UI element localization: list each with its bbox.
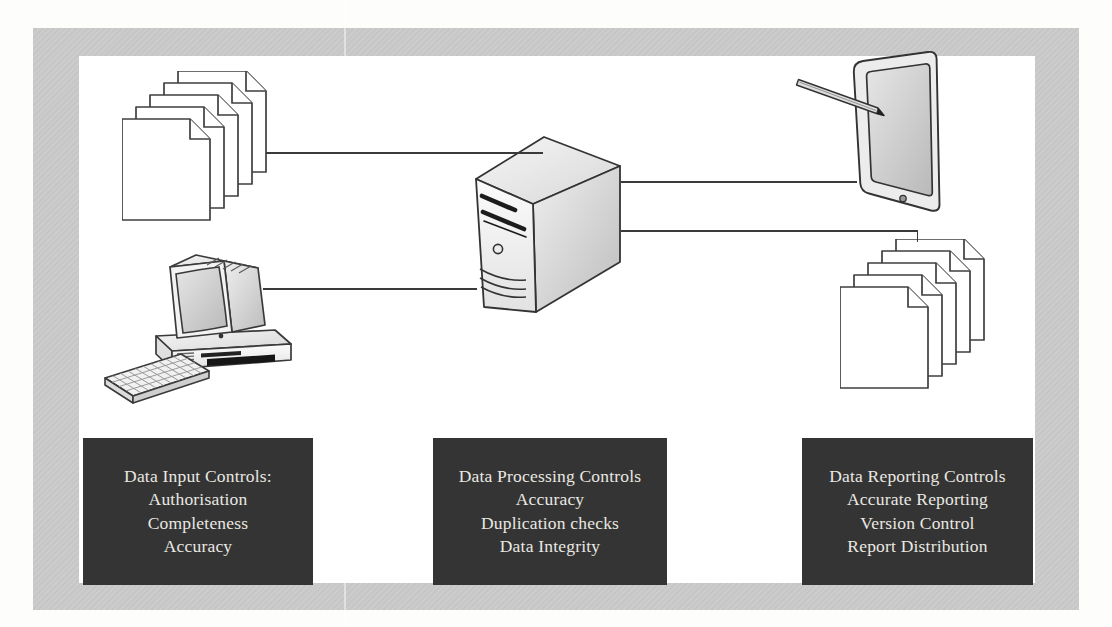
box-line: Version Control (860, 512, 974, 536)
box-line: Data Integrity (500, 535, 600, 559)
box-line: Data Processing Controls (459, 465, 642, 489)
connector-server-to-tablet (621, 181, 857, 183)
desktop-computer-icon (103, 248, 293, 416)
connector-server-to-output-docs-drop (917, 230, 919, 242)
box-data-input-controls: Data Input Controls: Authorisation Compl… (83, 438, 313, 585)
tablet-stylus-icon (793, 46, 951, 222)
box-line: Data Input Controls: (124, 465, 272, 489)
figure: Data Input Controls: Authorisation Compl… (0, 0, 1112, 627)
connector-computer-to-server (263, 288, 477, 290)
box-data-reporting-controls: Data Reporting Controls Accurate Reporti… (802, 438, 1033, 585)
server-icon (468, 133, 626, 317)
box-line: Duplication checks (481, 512, 619, 536)
box-line: Report Distribution (847, 535, 987, 559)
connector-server-to-output-docs (621, 230, 918, 232)
box-line: Accuracy (516, 488, 585, 512)
box-line: Authorisation (149, 488, 248, 512)
box-line: Accurate Reporting (847, 488, 988, 512)
box-data-processing-controls: Data Processing Controls Accuracy Duplic… (433, 438, 667, 585)
output-documents-stack-icon (840, 239, 990, 395)
box-line: Accuracy (164, 535, 233, 559)
connector-input-docs-to-server (266, 152, 543, 154)
input-documents-stack-icon (122, 71, 272, 227)
box-line: Data Reporting Controls (829, 465, 1006, 489)
box-line: Completeness (148, 512, 249, 536)
